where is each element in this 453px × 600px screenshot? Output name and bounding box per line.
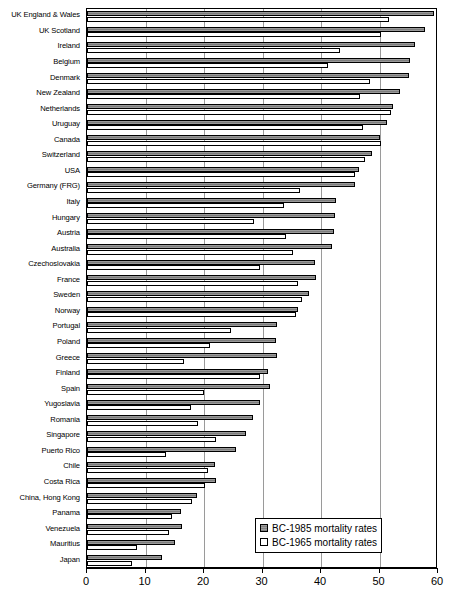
bar-s1985 bbox=[87, 104, 393, 109]
bar-s1985 bbox=[87, 307, 298, 312]
legend-label: BC-1985 mortality rates bbox=[272, 523, 377, 534]
category-label: Germany (FRG) bbox=[27, 181, 80, 190]
bar-s1985 bbox=[87, 198, 336, 203]
category-label: Netherlands bbox=[40, 104, 80, 113]
category-label: Sweden bbox=[53, 290, 80, 299]
category-label: Greece bbox=[56, 353, 80, 362]
bar-s1985 bbox=[87, 229, 334, 234]
legend-swatch-s1965 bbox=[260, 538, 268, 546]
x-tick-label: 20 bbox=[197, 575, 209, 587]
x-tick-0 bbox=[86, 568, 87, 573]
category-label: China, Hong Kong bbox=[20, 493, 80, 502]
bar-s1985 bbox=[87, 462, 215, 467]
bar-s1965 bbox=[87, 94, 360, 99]
bar-s1985 bbox=[87, 322, 277, 327]
category-label: Finland bbox=[56, 368, 80, 377]
bar-s1985 bbox=[87, 524, 182, 529]
bar-s1985 bbox=[87, 400, 260, 405]
bar-s1965 bbox=[87, 421, 198, 426]
category-label: Poland bbox=[57, 337, 80, 346]
bar-s1985 bbox=[87, 275, 316, 280]
plot-area bbox=[86, 8, 437, 568]
category-label: Hungary bbox=[52, 213, 80, 222]
x-tick-label: 50 bbox=[372, 575, 384, 587]
category-label: Mauritius bbox=[50, 539, 80, 548]
bar-s1985 bbox=[87, 478, 216, 483]
bar-s1985 bbox=[87, 260, 315, 265]
legend-item: BC-1985 mortality rates bbox=[260, 521, 377, 535]
category-label: Yugoslavia bbox=[44, 399, 80, 408]
bar-s1985 bbox=[87, 244, 332, 249]
bar-s1985 bbox=[87, 493, 197, 498]
category-label: Uruguay bbox=[52, 119, 80, 128]
bar-s1965 bbox=[87, 545, 137, 550]
bar-s1965 bbox=[87, 405, 191, 410]
bar-s1965 bbox=[87, 437, 216, 442]
x-tick-30 bbox=[262, 568, 263, 573]
category-label: Chile bbox=[63, 461, 80, 470]
bar-s1965 bbox=[87, 188, 300, 193]
bar-s1985 bbox=[87, 353, 277, 358]
bar-s1965 bbox=[87, 561, 132, 566]
bar-s1965 bbox=[87, 343, 210, 348]
legend-swatch-s1985 bbox=[260, 524, 268, 532]
bar-s1985 bbox=[87, 42, 415, 47]
category-label: Japan bbox=[60, 555, 80, 564]
bar-s1965 bbox=[87, 63, 328, 68]
bar-s1965 bbox=[87, 499, 192, 504]
bar-s1965 bbox=[87, 250, 293, 255]
bar-s1965 bbox=[87, 219, 254, 224]
category-label: Canada bbox=[54, 135, 80, 144]
bar-s1985 bbox=[87, 509, 181, 514]
bar-s1985 bbox=[87, 135, 380, 140]
bar-s1965 bbox=[87, 359, 184, 364]
bar-s1965 bbox=[87, 32, 381, 37]
x-tick-label: 30 bbox=[255, 575, 267, 587]
legend-item: BC-1965 mortality rates bbox=[260, 535, 377, 549]
bar-s1985 bbox=[87, 11, 434, 16]
x-tick-label: 40 bbox=[314, 575, 326, 587]
category-label: Costa Rica bbox=[44, 477, 80, 486]
category-label: UK Scotland bbox=[39, 26, 80, 35]
bar-s1985 bbox=[87, 447, 236, 452]
bar-s1985 bbox=[87, 291, 309, 296]
bar-s1985 bbox=[87, 384, 270, 389]
category-label: New Zealand bbox=[36, 88, 80, 97]
bar-s1985 bbox=[87, 415, 253, 420]
category-label: Puerto Rico bbox=[41, 446, 80, 455]
bar-s1985 bbox=[87, 167, 359, 172]
x-tick-60 bbox=[437, 568, 438, 573]
bar-s1965 bbox=[87, 390, 204, 395]
bar-s1965 bbox=[87, 483, 205, 488]
legend-label: BC-1965 mortality rates bbox=[272, 537, 377, 548]
x-axis: 0102030405060 bbox=[86, 568, 437, 598]
category-label: Romania bbox=[50, 415, 80, 424]
x-tick-label: 10 bbox=[138, 575, 150, 587]
category-label: Austria bbox=[57, 228, 80, 237]
bar-s1965 bbox=[87, 48, 340, 53]
category-axis-labels: UK England & WalesUK ScotlandIrelandBelg… bbox=[0, 8, 83, 568]
category-label: Singapore bbox=[46, 430, 80, 439]
bar-s1985 bbox=[87, 369, 268, 374]
bar-s1965 bbox=[87, 514, 172, 519]
category-label: USA bbox=[65, 166, 80, 175]
bar-s1965 bbox=[87, 110, 391, 115]
bar-s1965 bbox=[87, 281, 298, 286]
category-label: Portugal bbox=[53, 321, 80, 330]
bar-s1985 bbox=[87, 555, 162, 560]
category-label: Switzerland bbox=[42, 150, 80, 159]
x-tick-40 bbox=[320, 568, 321, 573]
bar-s1965 bbox=[87, 452, 166, 457]
category-label: Australia bbox=[51, 244, 80, 253]
bar-s1965 bbox=[87, 172, 355, 177]
bar-s1985 bbox=[87, 58, 410, 63]
bar-s1965 bbox=[87, 79, 370, 84]
bar-s1965 bbox=[87, 125, 363, 130]
horizontal-bar-chart: UK England & WalesUK ScotlandIrelandBelg… bbox=[0, 0, 453, 600]
bar-s1985 bbox=[87, 89, 400, 94]
bar-s1965 bbox=[87, 265, 260, 270]
category-label: Italy bbox=[67, 197, 80, 206]
category-label: Venezuela bbox=[45, 524, 80, 533]
bar-s1965 bbox=[87, 328, 231, 333]
bar-s1965 bbox=[87, 203, 284, 208]
